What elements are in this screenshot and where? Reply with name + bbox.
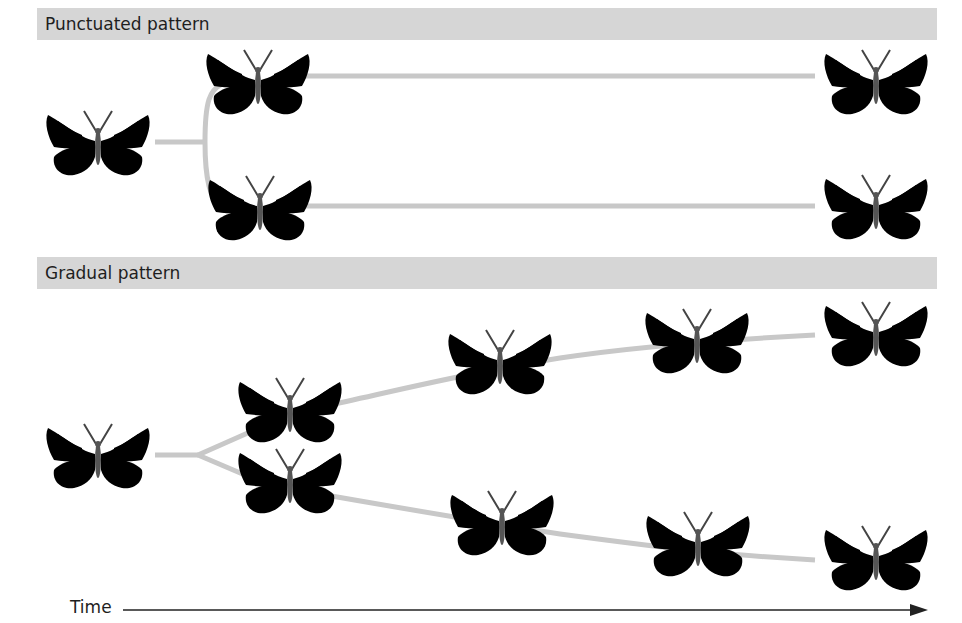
butterfly-icon-lower-1 — [238, 449, 341, 513]
butterfly-icon-lower-late — [824, 175, 927, 239]
butterfly-icon-upper-1 — [238, 378, 341, 442]
butterfly-icon-lower-early — [208, 176, 311, 240]
gradual-butterflies — [46, 302, 927, 590]
butterfly-icon-lower-2 — [450, 491, 553, 555]
butterfly-icon-lower-4 — [824, 526, 927, 590]
butterfly-icon-upper-2 — [448, 330, 551, 394]
evolution-diagram: .dark-banded .fw, .dark-banded .hw { fil… — [0, 0, 962, 623]
arrowhead-icon — [910, 604, 928, 616]
butterfly-icon-ancestor — [46, 111, 149, 175]
time-axis-arrow — [123, 604, 928, 616]
butterfly-icon-lower-3 — [646, 512, 749, 576]
butterfly-icon-upper-late — [824, 50, 927, 114]
butterfly-icon-upper-3 — [645, 309, 748, 373]
punctuated-butterflies — [46, 50, 927, 240]
butterfly-icon-upper-4 — [824, 302, 927, 366]
time-axis-label: Time — [70, 597, 112, 617]
butterfly-icon-upper-early — [206, 50, 309, 114]
butterfly-icon-ancestor — [46, 424, 149, 488]
